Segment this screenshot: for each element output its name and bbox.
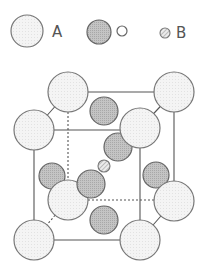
legend-item-a: A [11,15,63,47]
atom-o-top [90,97,118,125]
atom-a-back-top-right [154,72,194,112]
legend-item-o [87,20,127,44]
atom-b-center [98,160,110,172]
atom-a-front-top-left [14,110,54,150]
legend-label-a: A [52,23,63,41]
legend: A B [11,15,186,47]
atom-a-front-bottom-right [120,220,160,260]
legend-label-b: B [176,24,186,42]
atoms-o-front [77,133,132,234]
legend-label-o-glyph [117,26,127,36]
atom-a-front-bottom-left [14,220,54,260]
atom-o-front-face [77,170,105,198]
atom-o-icon [87,20,111,44]
atom-a-icon [11,15,43,47]
legend-item-b: B [160,24,186,42]
atom-o-bottom [90,206,118,234]
atom-a-back-top-left [48,72,88,112]
perovskite-diagram: A B [0,0,207,274]
atom-a-back-bottom-right [154,181,194,221]
atom-a-front-top-right [120,108,160,148]
atom-b-icon [160,28,170,38]
